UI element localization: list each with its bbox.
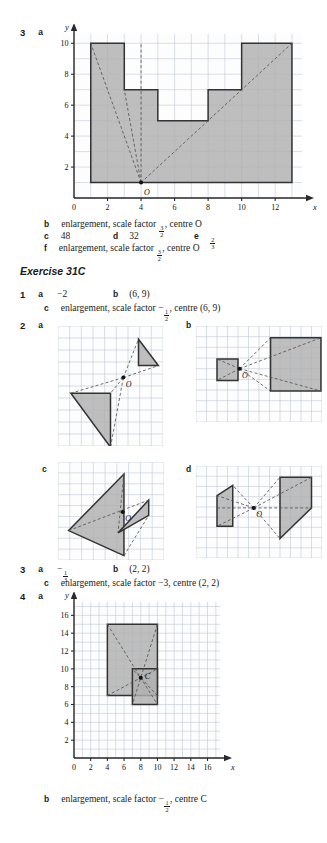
q3-answer-e-denominator: 3 <box>210 243 215 250</box>
y-axis-label: y <box>64 592 69 600</box>
q3-answer-b-fraction: 32 <box>159 225 164 239</box>
q2-part-b-row: b <box>186 320 191 330</box>
q2-panel-b: O <box>196 326 322 426</box>
q1-answer-c: enlargement, scale factor −12, centre (6… <box>61 303 221 322</box>
panel-content: O <box>58 462 164 560</box>
centre-label: O <box>125 514 131 523</box>
q1-answer-c-pre: enlargement, scale factor − <box>61 303 164 313</box>
q3-graph: O024681012246810xy <box>52 24 324 220</box>
q2-panel-d: O <box>196 466 322 562</box>
q4-answer-b: enlargement, scale factor −12, centre C <box>61 794 207 813</box>
y-axis-arrow <box>71 24 77 31</box>
question-number-3: 3 <box>20 27 25 38</box>
q3b-answer-a-sign: − <box>57 564 62 574</box>
q2-panel-b-svg: O <box>196 326 322 422</box>
q3-answer-f-post: , centre O <box>162 243 199 253</box>
y-axis-label: y <box>64 24 69 32</box>
q3-graph-svg: O024681012246810xy <box>52 24 324 220</box>
x-axis-tick-label: 8 <box>139 763 143 772</box>
panel-shape <box>217 359 238 380</box>
x-axis-tick-label: 2 <box>106 203 110 212</box>
q3-top-part-a-label: a <box>38 27 43 37</box>
x-axis-label: x <box>312 202 317 212</box>
q3b-part-b-row: b (2, 2) <box>113 564 150 574</box>
q3-part-b-label: b <box>44 219 49 229</box>
y-axis-tick-label: 16 <box>61 611 69 620</box>
graph-content: O024681012246810xy <box>61 24 318 212</box>
q4-number-row: 4 a <box>20 591 43 602</box>
y-axis-tick-label: 6 <box>65 101 69 110</box>
q3b-answer-b: (2, 2) <box>129 564 150 574</box>
panel-content: O <box>196 326 322 422</box>
q4-graph: C0246810121416246810121416xy <box>52 592 240 782</box>
centre-point <box>238 367 242 371</box>
answers-page: 3 a O024681012246810xy b enlargement, sc… <box>0 0 327 843</box>
q2-part-d-row: d <box>186 464 191 474</box>
q3-part-e-label: e <box>194 231 199 241</box>
q3-answer-b-pre: enlargement, scale factor <box>61 219 158 229</box>
q3-answer-e-fraction: 23 <box>210 237 215 251</box>
q3b-answer-c: enlargement, scale factor −3, centre (2,… <box>61 578 219 588</box>
q2-panel-a-svg: O <box>58 326 163 446</box>
graph-content: C0246810121416246810121416xy <box>61 592 236 772</box>
y-axis-tick-label: 8 <box>65 70 69 79</box>
q3-answer-d: 32 <box>129 231 139 241</box>
y-axis-tick-label: 4 <box>65 132 69 141</box>
q1-part-c-label: c <box>44 303 49 313</box>
q4-answer-b-fraction: 12 <box>164 800 169 814</box>
x-axis-label: x <box>230 762 235 772</box>
q3-answer-f-denominator: 2 <box>157 255 162 262</box>
q3-answer-f-pre: enlargement, scale factor <box>59 243 156 253</box>
q3-answer-c-row: c 48 <box>44 231 70 241</box>
x-axis-arrow <box>224 755 232 761</box>
x-axis-tick-label: 10 <box>238 203 246 212</box>
x-axis-tick-label: 12 <box>271 203 279 212</box>
x-axis-tick-label: 16 <box>203 763 211 772</box>
centre-label: O <box>256 510 262 519</box>
q4-part-a-label: a <box>38 591 43 601</box>
q3-answer-b-denominator: 2 <box>159 231 164 238</box>
q3-part-f-label: f <box>44 243 47 253</box>
q4-graph-svg: C0246810121416246810121416xy <box>52 592 240 782</box>
q3-answer-b-post: , centre O <box>165 219 202 229</box>
q1-answer-c-post: , centre (6, 9) <box>170 303 221 313</box>
y-axis-tick-label: 10 <box>61 39 69 48</box>
centre-label: C <box>145 672 151 681</box>
x-axis-tick-label: 2 <box>89 763 93 772</box>
q1-part-a-label: a <box>38 289 43 299</box>
y-axis-tick-label: 8 <box>65 683 69 692</box>
centre-label: O <box>126 380 132 389</box>
x-axis-arrow <box>306 195 314 201</box>
q4-part-b-label: b <box>44 794 49 804</box>
q2-part-c-label: c <box>42 464 47 474</box>
x-axis-tick-label: 14 <box>187 763 195 772</box>
q3-part-d-label: d <box>113 231 118 241</box>
x-axis-tick-label: 0 <box>72 203 76 212</box>
q4-part-b-row: b enlargement, scale factor −12, centre … <box>44 794 207 813</box>
q3b-part-c-row: c enlargement, scale factor −3, centre (… <box>44 578 219 588</box>
y-axis-tick-label: 14 <box>61 629 69 638</box>
q2-part-b-label: b <box>186 320 191 330</box>
q3-top-number-row: 3 a <box>20 27 43 38</box>
y-axis-tick-label: 12 <box>61 647 69 656</box>
question-number-1: 1 <box>20 289 25 300</box>
q4-answer-b-denominator: 2 <box>164 806 169 813</box>
q3b-part-a-label: a <box>38 564 43 574</box>
q4-answer-b-pre: enlargement, scale factor − <box>61 794 164 804</box>
q2-part-a-label: a <box>38 320 43 330</box>
q2-number-row: 2 a <box>20 320 43 331</box>
centre-point <box>139 676 143 680</box>
question-number-2: 2 <box>20 320 25 331</box>
y-axis-arrow <box>71 592 77 599</box>
x-axis-tick-label: 8 <box>206 203 210 212</box>
q1-part-c-row: c enlargement, scale factor −12, centre … <box>44 303 221 322</box>
x-axis-tick-label: 10 <box>153 763 161 772</box>
question-number-3-lower: 3 <box>20 564 25 575</box>
centre-label: O <box>242 371 248 380</box>
q3-answer-d-row: d 32 <box>113 231 139 241</box>
x-axis-tick-label: 4 <box>139 203 143 212</box>
centre-point <box>121 510 125 514</box>
q2-panel-d-svg: O <box>196 466 322 558</box>
exercise-heading: Exercise 31C <box>20 265 85 277</box>
q2-panel-a: O <box>58 326 163 450</box>
